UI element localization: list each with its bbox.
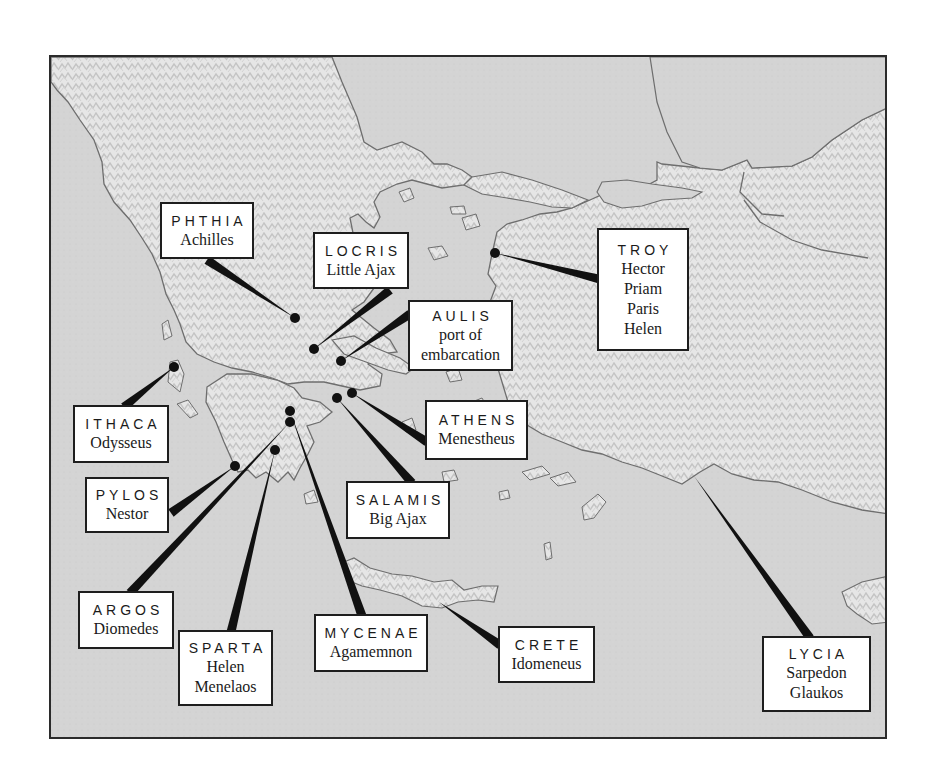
hero-name: Nestor [106,504,149,524]
hero-name: Paris [627,299,659,319]
place-name: CRETE [511,636,582,654]
label-phthia: PHTHIAAchilles [160,202,254,259]
place-name: PHTHIA [167,212,246,230]
label-salamis: SALAMISBig Ajax [346,481,450,539]
place-name: LYCIA [785,645,848,663]
label-sparta: SPARTAHelenMenelaos [178,630,273,706]
place-name: PYLOS [92,486,163,504]
hero-name: Priam [624,279,662,299]
label-pylos: PYLOSNestor [85,477,169,533]
label-mycenae: MYCENAEAgamemnon [314,614,428,672]
label-argos: ARGOSDiomedes [78,591,174,649]
hero-name: Helen [206,657,244,677]
hero-name: Glaukos [790,683,843,703]
place-name: ATHENS [435,411,519,429]
hero-name: Idomeneus [511,654,581,674]
label-crete: CRETEIdomeneus [498,626,595,683]
label-aulis: AULISport ofembarcation [408,300,513,371]
hero-name: Helen [624,319,662,339]
place-name: SPARTA [185,639,267,657]
label-troy: TROYHectorPriamParisHelen [597,228,689,351]
place-name: TROY [614,241,673,259]
place-name: AULIS [428,307,492,325]
label-athens: ATHENSMenestheus [425,400,528,460]
label-locris: LOCRISLittle Ajax [313,232,409,289]
hero-name: Diomedes [94,619,159,639]
hero-name: Odysseus [90,433,151,453]
place-name: LOCRIS [321,242,401,260]
place-name: ITHACA [81,415,160,433]
place-name: SALAMIS [352,491,445,509]
hero-name: Sarpedon [786,663,846,683]
hero-name: Menelaos [194,677,256,697]
hero-name: Little Ajax [327,260,396,280]
hero-name: embarcation [421,345,500,365]
hero-name: Big Ajax [369,509,426,529]
hero-name: Agamemnon [330,642,413,662]
hero-name: port of [439,325,482,345]
label-lycia: LYCIASarpedonGlaukos [762,636,871,712]
label-ithaca: ITHACAOdysseus [73,405,169,463]
place-name: ARGOS [89,601,164,619]
hero-name: Achilles [180,230,233,250]
place-name: MYCENAE [320,624,421,642]
hero-name: Menestheus [438,429,514,449]
hero-name: Hector [621,259,665,279]
